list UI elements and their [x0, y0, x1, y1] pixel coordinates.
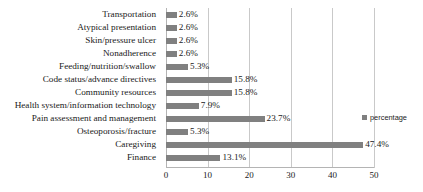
bar-row: 2.6%: [166, 8, 374, 21]
legend-label: percentage: [370, 113, 407, 122]
bar-row: 2.6%: [166, 34, 374, 47]
category-label: Community resources: [75, 88, 156, 97]
category-label-row: Health system/information technology: [0, 99, 161, 112]
category-label: Skin/pressure ulcer: [85, 36, 156, 45]
bar-value-label: 15.8%: [234, 75, 258, 84]
bar-row: 23.7%: [166, 112, 374, 125]
category-label-row: Pain assessment and management: [0, 112, 161, 125]
bar-chart: TransportationAtypical presentationSkin/…: [0, 0, 423, 192]
category-label-row: Feeding/nutrition/swallow: [0, 60, 161, 73]
bar[interactable]: [166, 38, 177, 44]
category-label-row: Osteoporosis/fracture: [0, 125, 161, 138]
bar-row: 15.8%: [166, 86, 374, 99]
bar[interactable]: [166, 103, 199, 109]
x-tick-label-30: 30: [286, 170, 295, 180]
bar[interactable]: [166, 90, 232, 96]
bar-value-label: 23.7%: [267, 114, 291, 123]
bar-value-label: 47.4%: [365, 140, 389, 149]
bar-value-label: 15.8%: [234, 88, 258, 97]
bar-row: 5.3%: [166, 125, 374, 138]
category-label: Finance: [127, 153, 156, 162]
category-label-row: Caregiving: [0, 138, 161, 151]
x-tick-label-40: 40: [328, 170, 337, 180]
x-tick-label-50: 50: [370, 170, 379, 180]
category-label: Pain assessment and management: [32, 114, 156, 123]
bar-value-label: 2.6%: [179, 36, 198, 45]
category-label-row: Code status/advance directives: [0, 73, 161, 86]
bar-row: 47.4%: [166, 138, 374, 151]
legend-swatch-icon: [362, 115, 367, 120]
x-tick-label-20: 20: [245, 170, 254, 180]
plot-area: 2.6%2.6%2.6%2.6%5.3%15.8%15.8%7.9%23.7%5…: [166, 8, 374, 168]
bar-series-percentage: 2.6%2.6%2.6%2.6%5.3%15.8%15.8%7.9%23.7%5…: [166, 8, 374, 168]
category-axis-labels: TransportationAtypical presentationSkin/…: [0, 8, 161, 164]
category-label: Health system/information technology: [15, 101, 156, 110]
bar[interactable]: [166, 155, 220, 161]
bar[interactable]: [166, 51, 177, 57]
bar-value-label: 13.1%: [222, 153, 246, 162]
bar-row: 15.8%: [166, 73, 374, 86]
category-label: Feeding/nutrition/swallow: [59, 62, 156, 71]
category-label-row: Skin/pressure ulcer: [0, 34, 161, 47]
bar-value-label: 7.9%: [201, 101, 220, 110]
category-label-row: Transportation: [0, 8, 161, 21]
bar[interactable]: [166, 64, 188, 70]
bar-value-label: 2.6%: [179, 10, 198, 19]
category-label: Transportation: [102, 10, 156, 19]
bar[interactable]: [166, 77, 232, 83]
bar-row: 2.6%: [166, 21, 374, 34]
bar-row: 7.9%: [166, 99, 374, 112]
x-tick-label-10: 10: [203, 170, 212, 180]
bar[interactable]: [166, 116, 265, 122]
bar[interactable]: [166, 12, 177, 18]
category-label: Nonadherence: [103, 49, 156, 58]
category-label: Code status/advance directives: [43, 75, 156, 84]
bar-row: 5.3%: [166, 60, 374, 73]
bar-value-label: 2.6%: [179, 49, 198, 58]
category-label: Caregiving: [115, 140, 156, 149]
category-label-row: Nonadherence: [0, 47, 161, 60]
bar[interactable]: [166, 25, 177, 31]
bar[interactable]: [166, 129, 188, 135]
x-axis-tick-labels: 01020304050: [166, 170, 374, 184]
bar-value-label: 5.3%: [190, 127, 209, 136]
category-label-row: Community resources: [0, 86, 161, 99]
category-label-row: Atypical presentation: [0, 21, 161, 34]
bar-row: 13.1%: [166, 151, 374, 164]
bar-value-label: 5.3%: [190, 62, 209, 71]
x-tick-label-0: 0: [164, 170, 169, 180]
chart-legend: percentage: [362, 113, 407, 122]
bar[interactable]: [166, 142, 363, 148]
bar-row: 2.6%: [166, 47, 374, 60]
category-label-row: Finance: [0, 151, 161, 164]
category-label: Atypical presentation: [77, 23, 156, 32]
bar-value-label: 2.6%: [179, 23, 198, 32]
category-label: Osteoporosis/fracture: [77, 127, 156, 136]
